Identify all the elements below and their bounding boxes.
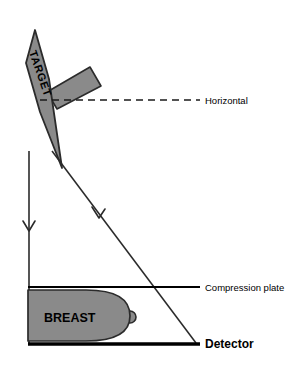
mammography-diagram: TARGET Horizontal Compression plate BREA… [0, 0, 293, 366]
compression-plate-label: Compression plate [205, 282, 284, 293]
horizontal-label: Horizontal [205, 95, 248, 106]
breast-shape-group: BREAST [28, 290, 136, 341]
diagram-canvas: TARGET Horizontal Compression plate BREA… [0, 0, 293, 366]
detector-label: Detector [205, 337, 254, 351]
breast-label: BREAST [44, 311, 96, 325]
